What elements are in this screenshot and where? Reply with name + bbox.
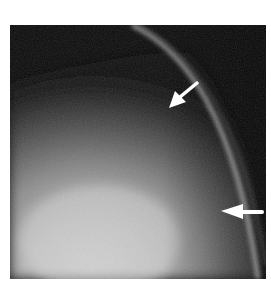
grain-overlay bbox=[10, 25, 266, 279]
medical-image bbox=[10, 25, 266, 279]
image-canvas bbox=[10, 25, 266, 279]
